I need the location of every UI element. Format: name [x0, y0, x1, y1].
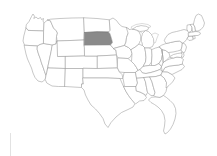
state-layer — [23, 14, 205, 134]
state-MA[interactable] — [189, 32, 201, 37]
state-KS[interactable] — [98, 55, 118, 69]
state-OR[interactable] — [23, 28, 44, 46]
state-ME[interactable] — [194, 14, 205, 31]
state-WA[interactable] — [26, 14, 44, 31]
state-OK[interactable] — [83, 68, 123, 79]
state-WY[interactable] — [57, 40, 85, 57]
left-margin-rule — [10, 133, 11, 156]
state-AR[interactable] — [123, 73, 138, 87]
state-RI[interactable] — [193, 36, 195, 39]
state-FL[interactable] — [149, 96, 177, 135]
state-MD[interactable] — [170, 53, 183, 58]
us-states-map[interactable] — [0, 0, 217, 156]
state-CO[interactable] — [66, 56, 98, 69]
state-SD[interactable] — [84, 32, 112, 45]
state-ND[interactable] — [84, 18, 110, 33]
state-MI[interactable] — [142, 31, 155, 49]
us-locator-map-figure: United States map with South Dakota high… — [0, 0, 217, 156]
state-NM[interactable] — [65, 69, 83, 88]
state-AZ[interactable] — [45, 68, 65, 87]
state-NY[interactable] — [165, 30, 190, 44]
state-CT[interactable] — [188, 36, 194, 41]
